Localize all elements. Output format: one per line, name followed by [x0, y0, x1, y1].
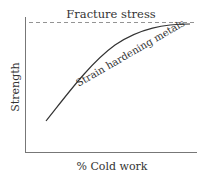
fracture-stress-label: Fracture stress [66, 7, 155, 21]
curve-label: Strain hardening metals [74, 17, 186, 88]
strength-vs-cold-work-diagram: Fracture stress Strain hardening metals … [0, 0, 208, 176]
y-axis-label: Strength [9, 62, 22, 111]
x-axis-label: % Cold work [76, 160, 147, 173]
strain-hardening-curve [46, 24, 190, 121]
